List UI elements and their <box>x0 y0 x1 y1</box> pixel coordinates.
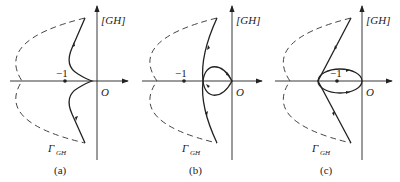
caption: (c) <box>320 164 333 177</box>
contour-subscript: GH <box>190 149 201 157</box>
panel-b: −1 O [GH] Γ GH (b) <box>142 6 262 177</box>
point-label: −1 <box>175 67 187 79</box>
caption: (b) <box>189 164 202 177</box>
nyquist-diagram-figure: −1 O [GH] Γ GH (a) −1 O [GH] Γ GH (b) <box>0 0 400 182</box>
panel-c: −1 O [GH] Γ GH (c) <box>275 6 392 177</box>
contour-label: Γ <box>47 142 55 154</box>
contour-label: Γ <box>181 142 189 154</box>
dashed-arc <box>16 18 85 143</box>
origin-label: O <box>236 86 244 98</box>
axis-label: [GH] <box>101 14 125 26</box>
critical-point <box>63 79 67 83</box>
contour-subscript: GH <box>320 149 331 157</box>
direction-arrow-icon <box>206 84 210 88</box>
axis-label: [GH] <box>366 14 390 26</box>
point-label: −1 <box>330 67 342 79</box>
critical-point <box>335 79 339 83</box>
direction-arrow-icon <box>332 111 335 116</box>
contour-label: Γ <box>311 142 319 154</box>
nyquist-curve <box>69 18 92 143</box>
origin-label: O <box>101 86 109 98</box>
caption: (a) <box>54 164 67 177</box>
nyquist-curve <box>318 18 351 143</box>
origin-label: O <box>366 86 374 98</box>
point-label: −1 <box>56 67 68 79</box>
axis-label: [GH] <box>236 14 260 26</box>
critical-point <box>182 79 186 83</box>
panel-a: −1 O [GH] Γ GH (a) <box>10 6 128 177</box>
contour-subscript: GH <box>56 149 67 157</box>
nyquist-curve <box>203 18 217 143</box>
direction-arrow-icon <box>207 45 210 50</box>
